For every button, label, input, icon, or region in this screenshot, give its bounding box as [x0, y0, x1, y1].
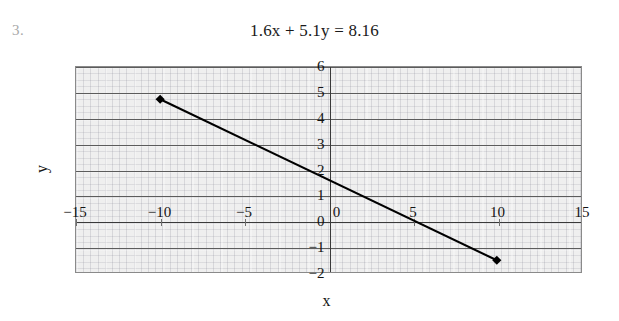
- y-tick-label: −2: [309, 265, 325, 282]
- line-series: [76, 67, 581, 273]
- graph: [75, 66, 582, 273]
- data-point-marker: [492, 256, 501, 265]
- data-point-marker: [156, 95, 165, 104]
- y-tick-label: 0: [317, 213, 325, 230]
- y-tick-label: 6: [317, 58, 325, 75]
- x-axis-title: x: [0, 292, 619, 310]
- y-tick-label: −1: [309, 239, 325, 256]
- plot-area: [75, 66, 582, 273]
- series-line: [160, 99, 497, 260]
- x-tick-label: 0: [333, 204, 341, 221]
- equation-title: 1.6x + 5.1y = 8.16: [0, 21, 619, 41]
- x-tick-label: 15: [575, 204, 590, 221]
- x-tick-label: −10: [148, 204, 171, 221]
- x-tick-label: −5: [236, 204, 252, 221]
- y-axis-title: y: [33, 165, 51, 173]
- y-tick-label: 4: [317, 109, 325, 126]
- x-tick-label: −15: [63, 204, 86, 221]
- worksheet-problem: 3. 1.6x + 5.1y = 8.16 6543210−1−2 −15−10…: [0, 0, 619, 321]
- x-tick-label: 10: [490, 204, 505, 221]
- y-tick-label: 3: [317, 135, 325, 152]
- y-tick-label: 5: [317, 83, 325, 100]
- y-tick-label: 1: [317, 187, 325, 204]
- y-tick-label: 2: [317, 161, 325, 178]
- x-tick-label: 5: [409, 204, 417, 221]
